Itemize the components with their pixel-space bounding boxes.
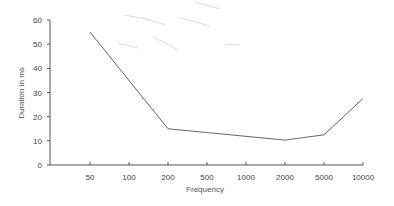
y-tick-label: 40 [33,64,42,73]
x-tick-label: 10000 [352,173,375,182]
y-tick-label: 0 [38,161,43,170]
duration-series-line [90,32,363,140]
y-axis-title: Duration in ms [17,67,26,119]
x-tick-label: 50 [86,173,95,182]
x-tick-label: 100 [122,173,136,182]
x-tick-label: 2000 [276,173,294,182]
x-tick-label: 1000 [237,173,255,182]
y-tick-label: 30 [33,89,42,98]
y-tick-label: 60 [33,16,42,25]
x-axis: 5010020050010002000500010000 [50,162,375,182]
artifact-streaks [118,2,240,50]
x-tick-label: 500 [200,173,214,182]
y-axis: 0102030405060 [33,16,50,170]
line-chart: 0102030405060 50100200500100020005000100… [0,0,394,206]
x-tick-label: 200 [161,173,175,182]
y-tick-label: 10 [33,137,42,146]
y-tick-label: 20 [33,113,42,122]
y-tick-label: 50 [33,40,42,49]
x-tick-label: 5000 [315,173,333,182]
x-axis-title: Frequency [186,185,224,194]
